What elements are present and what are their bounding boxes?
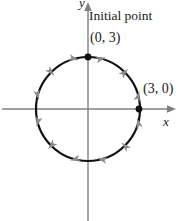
point-label-3-0: (3, 0): [143, 82, 173, 96]
parametric-circle-figure: Initial point (0, 3) (3, 0) x y: [0, 0, 184, 221]
point-label-0-3: (0, 3): [90, 31, 120, 45]
x-axis: [2, 105, 176, 113]
initial-point-marker: [85, 54, 92, 61]
terminal-point-marker: [136, 106, 143, 113]
initial-point-label: Initial point: [89, 9, 152, 23]
x-axis-arrowhead-icon: [167, 105, 176, 113]
x-axis-label: x: [163, 115, 169, 128]
y-axis-label: y: [79, 0, 85, 9]
